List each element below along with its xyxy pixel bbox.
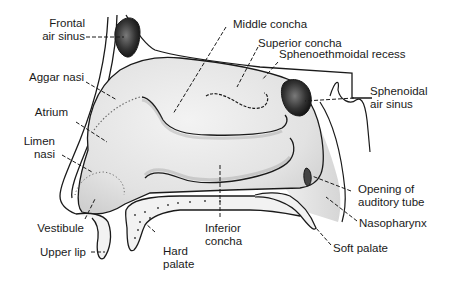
label-opening-of-auditory-tube: Opening of auditory tube: [358, 183, 425, 208]
label-hard-palate: Hard palate: [163, 245, 194, 270]
label-sphenoethmoidal-recess: Sphenoethmoidal recess: [279, 48, 406, 61]
label-sphenoidal-air-sinus: Sphenoidal air sinus: [370, 85, 428, 110]
label-frontal-air-sinus: Frontal air sinus: [42, 17, 85, 42]
label-upper-lip: Upper lip: [40, 246, 86, 259]
label-nasopharynx: Nasopharynx: [359, 217, 427, 230]
label-vestibule: Vestibule: [37, 222, 84, 235]
label-atrium: Atrium: [35, 106, 68, 119]
label-middle-concha: Middle concha: [233, 18, 307, 31]
label-limen-nasi: Limen nasi: [24, 135, 55, 160]
label-soft-palate: Soft palate: [333, 242, 388, 255]
label-inferior-concha: Inferior concha: [205, 222, 242, 247]
auditory-tube-opening: [304, 168, 311, 186]
label-aggar-nasi: Aggar nasi: [29, 71, 84, 84]
